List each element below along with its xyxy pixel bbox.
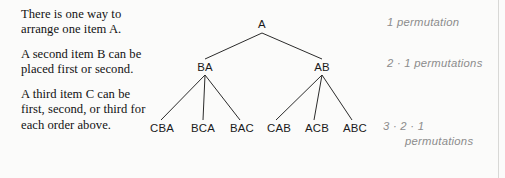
- edge-ba-to-bac: [205, 75, 240, 120]
- tree-node-ab: AB: [314, 61, 330, 73]
- tree-leaf-cba: CBA: [150, 122, 174, 134]
- annotation-level-one: 1 permutation: [387, 16, 459, 28]
- tree-leaf-abc: ABC: [343, 122, 367, 134]
- annotation-level-two: 2 · 1 permutations: [387, 57, 483, 69]
- edge-root-to-ab: [262, 33, 322, 59]
- edge-ab-to-abc: [322, 75, 352, 120]
- tree-node-root-a: A: [258, 18, 266, 30]
- tree-leaf-cab: CAB: [267, 122, 291, 134]
- tree-node-ba: BA: [197, 61, 213, 73]
- annotation-level-three-line2: permutations: [405, 135, 473, 147]
- annotation-level-three-line1: 3 · 2 · 1: [383, 120, 424, 132]
- edge-ba-to-cba: [161, 75, 205, 120]
- explanatory-text-column: There is one way to arrange one item A. …: [21, 7, 153, 133]
- tree-leaf-bca: BCA: [191, 122, 215, 134]
- tree-leaf-bac: BAC: [230, 122, 254, 134]
- paragraph-three: A third item C can be first, second, or …: [21, 87, 153, 132]
- permutation-tree-diagram: A BA AB CBA BCA BAC CAB ACB ABC: [145, 0, 380, 178]
- annotation-level-three: 3 · 2 · 1 permutations: [383, 120, 473, 147]
- tree-leaf-acb: ACB: [305, 122, 329, 134]
- edge-root-to-ba: [205, 33, 262, 59]
- paragraph-two: A second item B can be placed first or s…: [21, 47, 153, 77]
- edge-ba-to-bca: [203, 75, 205, 120]
- right-margin-rule: [498, 0, 499, 178]
- figure-permutation-tree: There is one way to arrange one item A. …: [0, 0, 505, 178]
- paragraph-one: There is one way to arrange one item A.: [21, 7, 153, 37]
